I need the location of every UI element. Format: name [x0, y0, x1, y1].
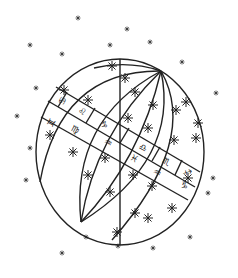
zodiac-glyph-icon: ♊ [45, 117, 58, 129]
star-icon [211, 176, 216, 181]
zodiac-glyph-icon: ♋ [56, 95, 69, 107]
star-icon [116, 244, 121, 249]
zodiac-glyph-icon: ♎ [137, 141, 149, 154]
star-icon [24, 178, 29, 183]
star-icon [206, 191, 211, 196]
star-icon [123, 113, 133, 123]
star-icon [148, 40, 153, 45]
star-icon [28, 146, 33, 151]
star-icon [76, 16, 81, 21]
star-icon [148, 100, 158, 110]
star-icon [108, 43, 113, 48]
star-icon [143, 123, 153, 133]
star-icon [171, 105, 181, 115]
globe-illustration: ♋♊♌♍♑♒♎♓♏♒♐♑ [0, 0, 238, 278]
star-icon [59, 85, 69, 95]
star-icon [100, 153, 110, 163]
zodiac-glyph-icon: ♌ [76, 105, 88, 118]
celestial-globe-drawing: ♋♊♌♍♑♒♎♓♏♒♐♑ [0, 0, 238, 278]
star-icon [183, 173, 193, 183]
star-icon [169, 135, 179, 145]
star-icon [180, 60, 185, 65]
star-icon [143, 213, 153, 223]
star-icon [125, 27, 130, 32]
star-icon [188, 235, 193, 240]
star-icon [128, 170, 138, 180]
star-icon [15, 114, 20, 119]
star-icon [83, 95, 93, 105]
globe-stars [45, 61, 203, 237]
star-icon [60, 251, 65, 256]
star-icon [167, 203, 177, 213]
star-icon [120, 73, 130, 83]
zodiac-glyph-icon: ♑ [98, 118, 110, 131]
star-icon [147, 181, 157, 191]
star-icon [130, 208, 140, 218]
star-icon [28, 43, 33, 48]
zodiac-glyph-icon: ♒ [151, 166, 163, 179]
star-icon [84, 235, 89, 240]
star-icon [151, 246, 156, 251]
star-icon [60, 52, 65, 57]
star-icon [107, 61, 117, 71]
star-icon [130, 87, 140, 97]
star-icon [191, 133, 201, 143]
star-icon [214, 91, 219, 96]
star-icon [105, 187, 115, 197]
star-icon [68, 147, 78, 157]
star-icon [112, 227, 122, 237]
star-icon [45, 130, 55, 140]
star-icon [193, 118, 203, 128]
star-icon [181, 97, 191, 107]
star-icon [34, 86, 39, 91]
star-icon [83, 170, 93, 180]
